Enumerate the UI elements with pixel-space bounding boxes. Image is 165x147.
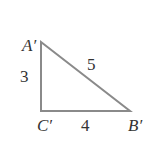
vertex-label-b: B′	[128, 116, 142, 135]
vertex-label-a: A′	[21, 36, 36, 55]
side-label-ac: 3	[20, 67, 29, 86]
triangle-diagram: A′ C′ B′ 3 4 5	[0, 0, 165, 147]
side-label-ab: 5	[87, 55, 96, 74]
triangle-a-b-c	[41, 42, 130, 111]
vertex-label-c: C′	[37, 116, 52, 135]
side-label-cb: 4	[81, 116, 90, 135]
